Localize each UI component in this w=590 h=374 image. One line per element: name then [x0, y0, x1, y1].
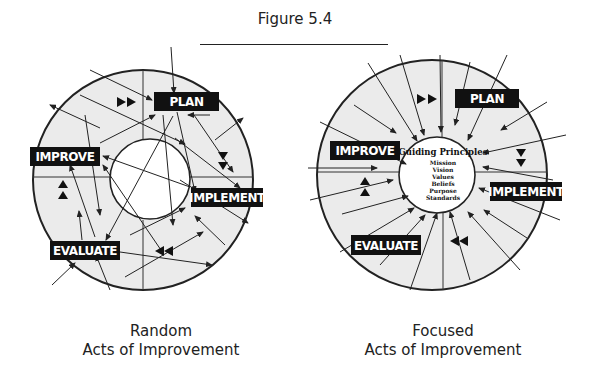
- inner-circle: [110, 139, 190, 219]
- svg-text:PLAN: PLAN: [169, 95, 203, 109]
- svg-text:IMPROVE: IMPROVE: [335, 144, 394, 158]
- focused-diagram: PLAN IMPLEMENT EVALUATE IMPROVE Guiding …: [308, 55, 566, 290]
- caption-focused: Focused Acts of Improvement: [313, 322, 573, 360]
- stage-label-evaluate: EVALUATE: [351, 235, 421, 255]
- stage-label-improve: IMPROVE: [330, 141, 400, 160]
- caption-random-line1: Random: [31, 322, 291, 341]
- svg-text:IMPROVE: IMPROVE: [35, 150, 94, 164]
- stage-label-implement: IMPLEMENT: [189, 188, 266, 207]
- svg-text:EVALUATE: EVALUATE: [354, 239, 418, 253]
- svg-text:IMPLEMENT: IMPLEMENT: [488, 185, 565, 199]
- random-diagram: PLAN IMPLEMENT EVALUATE IMPROVE: [30, 47, 266, 290]
- guiding-principles-heading: Guiding Principles: [399, 147, 488, 157]
- stage-label-implement: IMPLEMENT: [488, 182, 565, 201]
- principle-item: Beliefs: [431, 180, 455, 187]
- svg-text:EVALUATE: EVALUATE: [53, 244, 117, 258]
- caption-focused-line2: Acts of Improvement: [313, 341, 573, 360]
- cycle-diagrams: PLAN IMPLEMENT EVALUATE IMPROVE: [0, 0, 590, 374]
- stage-label-evaluate: EVALUATE: [50, 241, 120, 260]
- caption-focused-line1: Focused: [313, 322, 573, 341]
- stage-label-plan: PLAN: [455, 89, 519, 108]
- principle-item: Values: [431, 173, 454, 180]
- stage-label-plan: PLAN: [154, 92, 219, 111]
- principle-item: Vision: [432, 166, 454, 173]
- svg-text:PLAN: PLAN: [470, 92, 504, 106]
- stage-label-improve: IMPROVE: [30, 147, 100, 166]
- svg-text:IMPLEMENT: IMPLEMENT: [189, 191, 266, 205]
- principle-item: Mission: [430, 159, 457, 166]
- caption-random: Random Acts of Improvement: [31, 322, 291, 360]
- principle-item: Standards: [426, 194, 461, 201]
- caption-random-line2: Acts of Improvement: [31, 341, 291, 360]
